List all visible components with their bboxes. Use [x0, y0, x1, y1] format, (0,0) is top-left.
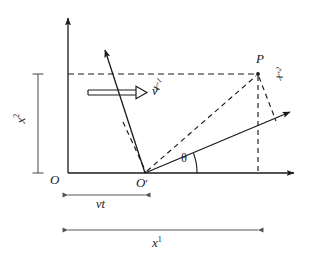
diagram-canvas	[0, 0, 309, 265]
x2-axis-label-superscript: 2	[12, 114, 21, 118]
x1-axis-label: x1	[152, 236, 162, 249]
origin-O-prime-text: O	[136, 175, 145, 190]
vt-label: vt	[96, 198, 105, 211]
x2-prime-axis-line	[105, 50, 145, 173]
origin-O-prime-label: O′	[136, 176, 148, 189]
velocity-label-text: v	[152, 83, 158, 98]
x1-prime-coordinate-dashed	[147, 76, 256, 171]
origin-O-text: O	[50, 172, 59, 187]
x1-prime-axis-line	[145, 112, 290, 173]
x1-prime-ray-extension-dashed	[123, 122, 146, 172]
origin-O-prime-prime-mark: ′	[145, 177, 147, 189]
point-P-marker	[256, 72, 260, 76]
origin-O-label: O	[50, 173, 59, 186]
x2-prime-coordinate-dashed	[259, 77, 276, 121]
physics-diagram: O O′ x1 x2 vt x′1 x′2 P v θ	[0, 0, 309, 265]
x1-axis-label-superscript: 1	[158, 235, 162, 244]
point-P-label: P	[256, 52, 264, 65]
velocity-label: v	[152, 84, 158, 97]
theta-label: θ	[181, 152, 187, 165]
vt-label-text: vt	[96, 197, 105, 211]
x2-axis-label: x2	[14, 104, 27, 134]
x2-measure-bar	[33, 74, 44, 173]
point-P-text: P	[256, 51, 264, 66]
x2-axis-label-text: x	[13, 118, 28, 124]
theta-angle-arc	[194, 153, 198, 173]
theta-label-text: θ	[181, 151, 187, 165]
